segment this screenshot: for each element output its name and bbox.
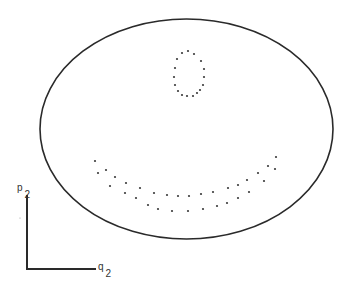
orbit-dot <box>202 208 204 210</box>
orbit-dot <box>246 179 248 181</box>
orbit-dot <box>227 187 229 189</box>
q2-axis-label: q2 <box>98 262 109 272</box>
orbit-dot <box>200 60 202 62</box>
orbit-dot <box>203 68 205 70</box>
orbit-dot <box>166 194 168 196</box>
orbit-dot <box>125 182 127 184</box>
orbit-dot <box>171 210 173 212</box>
orbit-dot <box>97 172 99 174</box>
orbit-dot <box>237 184 239 186</box>
orbit-dot <box>153 192 155 194</box>
orbit-dot <box>177 90 179 92</box>
orbit-dot <box>114 176 116 178</box>
orbit-dot <box>274 168 276 170</box>
orbit-dot <box>105 169 107 171</box>
orbit-dot <box>212 191 214 193</box>
orbit-dot <box>188 195 190 197</box>
stray-mark <box>19 217 20 218</box>
orbit-dot <box>187 210 189 212</box>
orbit-dot <box>193 53 195 55</box>
orbit-dot <box>94 160 96 162</box>
orbit-dot <box>186 95 188 97</box>
p2-label-subscript: 2 <box>25 189 31 200</box>
orbit-dot <box>226 202 228 204</box>
stray-marks <box>19 217 20 218</box>
orbit-dot <box>267 165 269 167</box>
phase-space-figure <box>0 0 343 291</box>
orbit-dot <box>203 76 205 78</box>
orbit-dot <box>173 76 175 78</box>
orbit-dot <box>177 195 179 197</box>
orbit-dot <box>192 95 194 97</box>
orbit-dot <box>275 156 277 158</box>
orbit-dot <box>199 89 201 91</box>
q2-label-subscript: 2 <box>106 268 112 279</box>
orbit-dot <box>257 172 259 174</box>
crescent-orbit-dots <box>94 156 277 212</box>
orbit-dot <box>200 193 202 195</box>
orbit-dot <box>202 84 204 86</box>
orbit-dot <box>216 205 218 207</box>
orbit-dot <box>157 208 159 210</box>
orbit-dot <box>174 67 176 69</box>
orbit-dot <box>124 192 126 194</box>
island-orbit-dots <box>173 50 205 97</box>
energy-boundary-ellipse <box>40 19 333 239</box>
orbit-dot <box>196 92 198 94</box>
orbit-dot <box>174 84 176 86</box>
orbit-dot <box>181 52 183 54</box>
orbit-dot <box>176 58 178 60</box>
orbit-dot <box>139 187 141 189</box>
orbit-dot <box>181 94 183 96</box>
orbit-dot <box>109 185 111 187</box>
orbit-dot <box>263 180 265 182</box>
orbit-dot <box>147 204 149 206</box>
orbit-dot <box>248 191 250 193</box>
p2-label-base: p <box>17 182 23 193</box>
p2-axis-label: p2 <box>17 183 28 193</box>
orbit-dot <box>135 197 137 199</box>
orbit-dot <box>187 50 189 52</box>
orbit-dot <box>237 197 239 199</box>
q2-label-base: q <box>98 261 104 272</box>
